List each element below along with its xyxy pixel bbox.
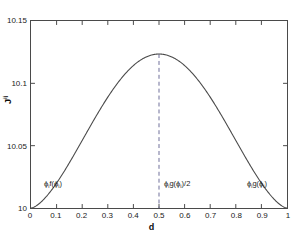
x-tick-label-0.1: 0.1: [44, 212, 68, 220]
annotation-right-subscript-2: i: [263, 183, 264, 189]
annotation-middle-subscript: i: [168, 183, 169, 189]
x-tick-label-0.9: 0.9: [250, 212, 274, 220]
annotation-middle-subscript-2: i: [180, 183, 181, 189]
x-tick-label-1: 1: [276, 212, 300, 220]
plot-area: ϕif(ϕi) ϕig(ϕi)/2 ϕig(ϕi): [30, 20, 288, 209]
annotation-middle: ϕig(ϕi)/2: [164, 179, 190, 188]
y-tick-marks: [31, 83, 287, 145]
x-axis-label: d: [0, 222, 303, 232]
x-tick-label-0: 0: [18, 212, 42, 220]
annotation-left-subscript: i: [48, 183, 49, 189]
x-tick-label-0.7: 0.7: [199, 212, 223, 220]
annotation-right: ϕig(ϕi): [247, 179, 267, 188]
x-tick-label-0.3: 0.3: [95, 212, 119, 220]
y-axis-label-base: J: [3, 99, 13, 104]
x-tick-label-0.8: 0.8: [224, 212, 248, 220]
figure-container: Jij 10.15 10.1 10.05 10 0 0.1 0.2 0.3 0.…: [0, 0, 303, 241]
y-tick-label-10.15: 10.15: [7, 17, 27, 25]
annotation-right-subscript: i: [251, 183, 252, 189]
y-tick-label-10.05: 10.05: [7, 143, 27, 151]
y-axis-label: Jij: [2, 96, 13, 104]
x-tick-label-0.5: 0.5: [147, 212, 171, 220]
x-tick-label-0.6: 0.6: [173, 212, 197, 220]
y-tick-label-10.1: 10.1: [11, 80, 27, 88]
x-tick-label-0.2: 0.2: [70, 212, 94, 220]
y-axis-label-superscript: ij: [2, 96, 8, 99]
annotation-left-subscript-2: i: [58, 183, 59, 189]
annotation-left: ϕif(ϕi): [44, 179, 62, 188]
x-tick-label-0.4: 0.4: [121, 212, 145, 220]
